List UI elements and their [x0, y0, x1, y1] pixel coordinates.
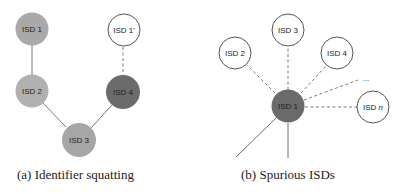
edge-isd1-ellipsis-dashed: [304, 80, 358, 100]
edge-isd1-offcanvas-diagonal: [236, 118, 276, 157]
edge-isd2-isd3: [43, 103, 66, 127]
node-label: ISD 1: [22, 25, 43, 34]
node-label: ISD 4: [113, 88, 134, 97]
node-label: ISD 1: [278, 102, 299, 111]
diagram-canvas: ISD 1 ISD 2 ISD 3 ISD 4 ISD 1' ISD 1 ISD…: [0, 0, 404, 194]
node-label: ISD 4: [327, 49, 348, 58]
panel-a-node-isd1: ISD 1: [16, 13, 49, 46]
node-label: ISD 1': [113, 26, 135, 35]
node-label: ISD 2: [22, 87, 43, 96]
panel-a-node-isd3: ISD 3: [62, 123, 96, 157]
panel-b-node-isd1: ISD 1: [272, 90, 305, 123]
panel-b-node-isd2: ISD 2: [219, 37, 251, 69]
panel-b-node-isd4: ISD 4: [321, 37, 353, 69]
panel-a-node-isd1prime: ISD 1': [108, 14, 140, 46]
ellipsis-label: ...: [363, 74, 370, 83]
node-label: ISD 3: [69, 136, 90, 145]
node-label-italic: n: [379, 103, 384, 112]
caption-panel-a: (a) Identifier squatting: [17, 167, 134, 183]
panel-b-node-isd3: ISD 3: [272, 14, 304, 46]
node-label: ISD n: [363, 103, 384, 112]
node-label-prefix: ISD: [363, 103, 379, 112]
node-label: ISD 3: [278, 26, 299, 35]
edge-isd1-isd4-dashed: [301, 66, 326, 93]
panel-a-node-isd2: ISD 2: [16, 75, 49, 108]
panel-b-node-isdn: ISD n: [357, 91, 389, 123]
edge-isd3-isd4: [91, 105, 112, 128]
caption-panel-b: (b) Spurious ISDs: [241, 167, 335, 183]
panel-a-node-isd4: ISD 4: [106, 75, 140, 109]
edge-isd1-isd2-dashed: [247, 65, 275, 93]
node-label: ISD 2: [225, 49, 246, 58]
